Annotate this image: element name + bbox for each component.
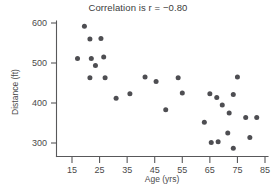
y-tick-label: 300 [32,138,47,148]
data-point [220,103,225,108]
data-point [82,24,87,29]
data-point [101,55,106,60]
data-point [235,75,240,80]
data-point [214,95,219,100]
data-point [154,79,159,84]
data-point [103,75,108,80]
data-point [202,120,207,125]
data-point [89,56,94,61]
data-point [176,75,181,80]
x-axis-title: Age (yrs) [145,174,180,184]
data-point [93,63,98,68]
data-point [231,92,236,97]
y-tick-label: 500 [32,58,47,68]
data-points [75,24,259,151]
x-tick-label: 25 [95,165,105,175]
x-tick-label: 65 [205,165,215,175]
data-point [216,139,221,144]
data-point [225,131,230,136]
y-tick-label: 400 [32,98,47,108]
y-axis-tick-labels: 300400500600 [32,18,47,148]
data-point [87,37,92,42]
y-axis-title: Distance (ft) [10,69,20,115]
x-axis-ticks [72,157,265,163]
data-point [207,91,212,96]
data-point [227,111,232,116]
x-tick-label: 75 [232,165,242,175]
x-tick-label: 35 [122,165,132,175]
data-point [75,56,80,61]
y-tick-label: 600 [32,18,47,28]
data-point [143,75,148,80]
data-point [114,96,119,101]
data-point [209,140,214,145]
data-point [243,115,248,120]
data-point [247,135,252,140]
data-point [180,91,185,96]
data-point [98,36,103,41]
data-point [87,75,92,80]
data-point [254,115,259,120]
data-point [231,146,236,151]
scatter-plot-figure: Correlation is r = −0.80 300400500600 15… [0,0,276,188]
plot-area: 300400500600 1525354555657585 Distance (… [0,0,276,188]
x-tick-label: 85 [260,165,270,175]
x-tick-label: 15 [67,165,77,175]
data-point [163,107,168,112]
data-point [127,91,132,96]
axes [57,21,269,157]
